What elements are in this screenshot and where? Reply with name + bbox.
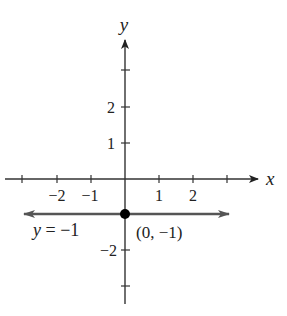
y-tick-label-2: 2 [107, 99, 115, 116]
x-tick-label-neg2: −2 [48, 187, 65, 204]
x-axis: −2 −1 1 2 x [5, 168, 275, 204]
y-tick-label-neg2: −2 [100, 242, 117, 259]
coordinate-plane: −2 −1 1 2 x 2 1 −2 y y = −1 (0, −1) [0, 0, 287, 316]
line-equation-rest: = −1 [41, 220, 79, 240]
x-tick-label-1: 1 [155, 187, 163, 204]
x-tick-label-2: 2 [189, 187, 197, 204]
y-tick-label-1: 1 [107, 135, 115, 152]
y-axis-label: y [118, 14, 129, 35]
point-label: (0, −1) [136, 223, 182, 242]
y-axis: 2 1 −2 y [100, 14, 130, 304]
line-equation-label: y = −1 [31, 220, 79, 240]
x-axis-label: x [265, 168, 275, 189]
line-equation-var: y [31, 220, 41, 240]
x-tick-label-neg1: −1 [81, 187, 98, 204]
point-marker [120, 209, 130, 219]
